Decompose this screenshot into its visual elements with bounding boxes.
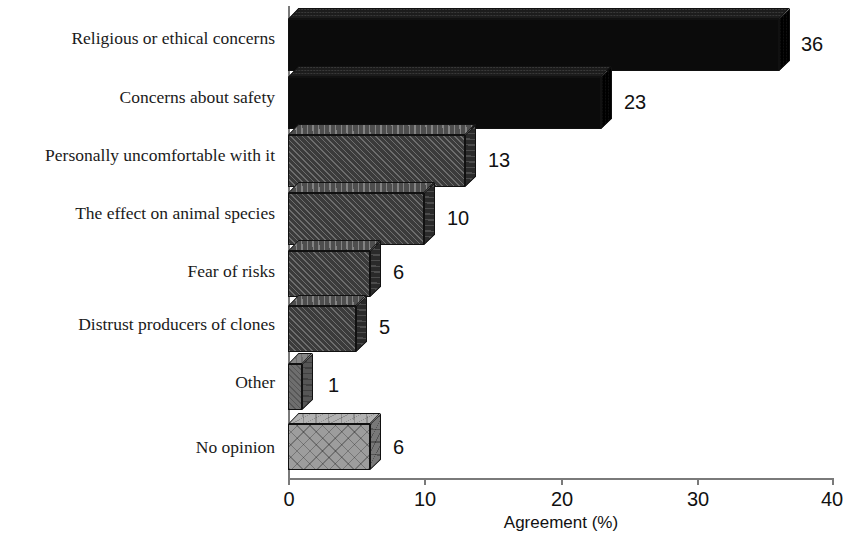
y-axis-label-6: Other: [235, 374, 275, 392]
y-axis-label-2: Personally uncomfortable with it: [45, 147, 275, 165]
bar-0-value: 36: [801, 34, 823, 54]
bar-0: [288, 19, 779, 71]
y-axis-label-0: Religious or ethical concerns: [71, 30, 275, 48]
bar-chart: Religious or ethical concerns Concerns a…: [0, 0, 854, 551]
bar-7: [288, 424, 370, 470]
bar-4: [288, 251, 370, 297]
bar-1-top: [288, 66, 612, 77]
bar-7-front: [288, 424, 370, 470]
bar-4-front: [288, 251, 370, 297]
bar-3-value: 10: [447, 208, 469, 228]
bar-2: [288, 135, 465, 187]
bar-7-side: [370, 413, 381, 470]
x-axis-title: Agreement (%): [288, 513, 834, 533]
x-tick-label-30: 30: [687, 489, 709, 509]
x-tick-40: [832, 478, 834, 485]
bar-6-front: [288, 364, 302, 410]
y-axis-label-1: Concerns about safety: [119, 89, 275, 107]
y-axis-label-4: Fear of risks: [188, 263, 275, 281]
bar-1: [288, 77, 601, 129]
bar-5-side: [356, 295, 367, 352]
bar-5: [288, 306, 356, 352]
bar-7-value: 6: [393, 437, 404, 457]
bar-3-front: [288, 193, 424, 245]
bar-2-side: [465, 124, 476, 187]
bar-5-top: [288, 295, 367, 306]
bar-4-side: [370, 240, 381, 297]
bar-0-side: [779, 8, 790, 71]
bar-4-top: [288, 240, 381, 251]
bar-1-front: [288, 77, 601, 129]
x-tick-label-40: 40: [821, 489, 843, 509]
bar-5-value: 5: [379, 317, 390, 337]
y-axis-label-7: No opinion: [196, 439, 275, 457]
bar-3-side: [424, 182, 435, 245]
plot-area: 0 10 20 30 40 36 23 13: [288, 6, 834, 478]
bar-5-front: [288, 306, 356, 352]
bar-6-side: [302, 353, 313, 410]
y-axis-label-5: Distrust producers of clones: [78, 316, 275, 334]
x-tick-label-10: 10: [414, 489, 436, 509]
y-axis-label-3: The effect on animal species: [75, 205, 275, 223]
bar-0-front: [288, 19, 779, 71]
x-tick-30: [697, 478, 699, 485]
bar-3-top: [288, 182, 435, 193]
bar-2-front: [288, 135, 465, 187]
bar-1-side: [601, 66, 612, 129]
x-tick-label-0: 0: [283, 489, 294, 509]
x-tick-0: [288, 478, 290, 485]
bar-1-value: 23: [624, 92, 646, 112]
bar-6-value: 1: [328, 375, 339, 395]
bar-2-value: 13: [488, 150, 510, 170]
bar-2-top: [288, 124, 476, 135]
x-tick-10: [424, 478, 426, 485]
bar-0-top: [288, 8, 790, 19]
x-tick-20: [561, 478, 563, 485]
bar-4-value: 6: [393, 262, 404, 282]
x-tick-label-20: 20: [551, 489, 573, 509]
bar-6: [288, 364, 302, 410]
bar-7-top: [288, 413, 381, 424]
bar-3: [288, 193, 424, 245]
